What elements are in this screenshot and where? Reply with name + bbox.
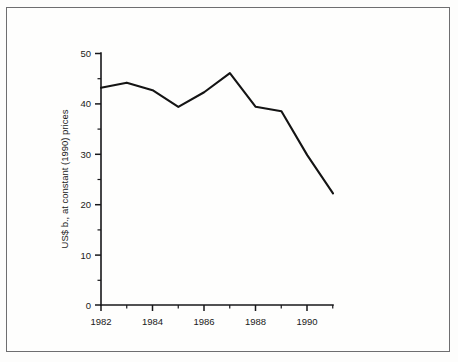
y-tick-label: 0: [86, 300, 91, 311]
y-tick-label: 30: [80, 149, 91, 160]
x-axis-tick-labels: 1982 1984 1986 1988 1990: [90, 316, 317, 327]
x-tick-label: 1988: [245, 316, 266, 327]
y-tick-label: 50: [80, 48, 91, 59]
chart-figure: 50 40 30 20 10 0 1982 1984 1986 1988 199…: [0, 0, 458, 362]
x-tick-label: 1982: [90, 316, 111, 327]
line-chart-plot: 50 40 30 20 10 0 1982 1984 1986 1988 199…: [0, 0, 458, 362]
x-tick-label: 1990: [296, 316, 317, 327]
x-axis-major-ticks: [101, 305, 307, 311]
y-tick-label: 20: [80, 199, 91, 210]
y-tick-label: 40: [80, 98, 91, 109]
data-series-line: [101, 73, 333, 193]
y-tick-label: 10: [80, 250, 91, 261]
x-tick-label: 1984: [142, 316, 163, 327]
x-tick-label: 1986: [193, 316, 214, 327]
y-axis-tick-labels: 50 40 30 20 10 0: [80, 48, 91, 311]
y-axis-title: US$ b., at constant (1990) prices: [59, 109, 70, 248]
